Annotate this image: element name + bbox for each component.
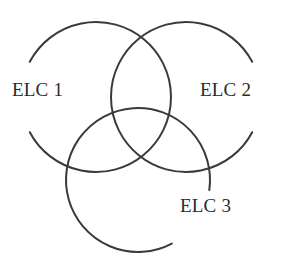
venn-circles-group	[0, 0, 283, 273]
set-label-elc-1: ELC 1	[10, 79, 65, 100]
venn-diagram: ELC 1 ELC 2 ELC 3	[0, 0, 283, 273]
circle-arc-elc-3	[66, 108, 210, 252]
set-label-elc-3: ELC 3	[178, 195, 233, 216]
set-label-elc-2: ELC 2	[198, 79, 253, 100]
